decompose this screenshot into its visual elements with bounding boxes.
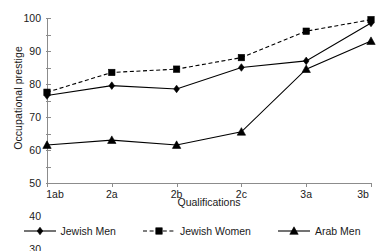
x-axis-title: Qualifications: [47, 196, 371, 208]
x-tick: [47, 183, 48, 187]
y-tick-label: 50: [29, 177, 41, 189]
data-point-diamond: [109, 82, 115, 90]
x-tick: [241, 183, 242, 187]
legend-label: Jewish Men: [61, 225, 116, 237]
data-point-triangle: [302, 65, 310, 73]
series-line: [47, 20, 371, 93]
data-point-square: [44, 89, 50, 95]
data-point-square: [109, 69, 115, 75]
legend-item: Jewish Men: [23, 225, 116, 237]
data-point-square: [303, 28, 309, 34]
legend-marker-triangle-icon: [277, 225, 311, 237]
series-group: [44, 16, 374, 95]
data-point-square: [238, 54, 244, 60]
y-tick-label: 100: [23, 12, 41, 24]
data-point-diamond: [239, 64, 245, 72]
series-layer: [47, 18, 371, 183]
x-tick: [112, 183, 113, 187]
series-line: [47, 41, 371, 145]
y-tick-label: 90: [29, 45, 41, 57]
data-point-square: [156, 228, 162, 234]
data-point-square: [368, 16, 374, 22]
line-chart: Occupational prestige 010203040506070809…: [0, 0, 383, 251]
series-group: [44, 19, 374, 99]
y-tick-label: 60: [29, 144, 41, 156]
data-point-triangle: [108, 136, 116, 144]
y-axis-title: Occupational prestige: [12, 28, 24, 168]
x-axis-line: [47, 183, 371, 184]
legend-label: Jewish Women: [180, 225, 251, 237]
legend-item: Arab Men: [277, 225, 361, 237]
data-point-diamond: [303, 57, 309, 65]
plot-area: 0102030405060708090100 1ab2a2b2c3a3b: [47, 18, 371, 183]
data-point-triangle: [367, 37, 375, 45]
data-point-square: [173, 66, 179, 72]
y-tick-label: 40: [29, 210, 41, 222]
data-point-diamond: [174, 85, 180, 93]
series-group: [43, 37, 375, 149]
legend-marker-diamond-icon: [23, 225, 57, 237]
legend-item: Jewish Women: [142, 225, 251, 237]
x-tick: [371, 183, 372, 187]
data-point-diamond: [37, 227, 43, 235]
y-tick-label: 70: [29, 111, 41, 123]
legend-label: Arab Men: [315, 225, 361, 237]
x-tick: [306, 183, 307, 187]
y-tick-label: 80: [29, 78, 41, 90]
y-tick-label: 30: [29, 243, 41, 251]
legend-marker-square-icon: [142, 225, 176, 237]
x-tick: [177, 183, 178, 187]
series-line: [47, 23, 371, 96]
chart-legend: Jewish MenJewish WomenArab Men: [0, 225, 383, 237]
